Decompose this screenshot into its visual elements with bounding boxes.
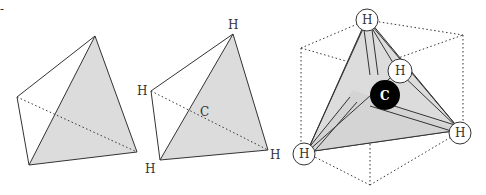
panel-plain-tetrahedron xyxy=(17,36,137,165)
label-h-top: H xyxy=(228,18,238,32)
shaded-face xyxy=(29,36,137,165)
shaded-face xyxy=(160,34,268,160)
label-h-left: H xyxy=(137,84,147,98)
edge xyxy=(151,91,160,160)
methane-tetrahedron-diagram: - H H H H C xyxy=(0,0,486,195)
hydrogen-atom-left: H xyxy=(293,143,315,165)
panel-labeled-tetrahedron: H H H H C xyxy=(137,18,280,176)
label-carbon: C xyxy=(380,89,390,103)
svg-text:H: H xyxy=(299,147,309,161)
hydrogen-atom-right: H xyxy=(449,122,471,144)
label-c-center: C xyxy=(200,105,209,119)
label-h-bottom-left: H xyxy=(145,162,155,176)
panel-methane-in-cube: C H H H H xyxy=(293,9,471,185)
label-h-right: H xyxy=(270,148,280,162)
corner-mark: - xyxy=(0,2,4,16)
hydrogen-atom-top: H xyxy=(356,9,378,31)
edge xyxy=(17,97,29,165)
svg-text:H: H xyxy=(362,13,372,27)
svg-text:H: H xyxy=(455,126,465,140)
svg-text:H: H xyxy=(395,64,405,78)
hydrogen-atom-front: H xyxy=(388,59,412,83)
